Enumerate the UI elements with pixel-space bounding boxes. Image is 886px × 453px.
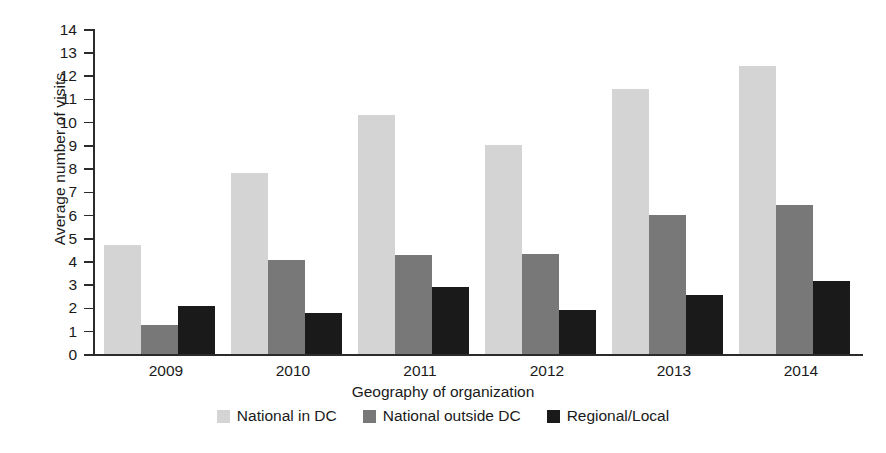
bar bbox=[358, 115, 395, 354]
x-tick-label: 2009 bbox=[104, 362, 228, 380]
y-tick-label: 10 bbox=[60, 115, 77, 131]
bar bbox=[686, 295, 723, 354]
y-tick: 5 bbox=[84, 238, 93, 240]
bar bbox=[612, 89, 649, 354]
y-tick: 6 bbox=[84, 215, 93, 217]
y-tick: 1 bbox=[84, 331, 93, 333]
bar bbox=[305, 313, 342, 354]
y-tick: 4 bbox=[84, 261, 93, 263]
y-tick-label: 0 bbox=[68, 347, 77, 363]
y-tick-label: 14 bbox=[60, 22, 77, 38]
y-axis-line bbox=[93, 29, 95, 354]
bar-group: 2013 bbox=[612, 29, 736, 354]
bar bbox=[485, 145, 522, 354]
y-tick-label: 3 bbox=[68, 277, 77, 293]
bar-group: 2011 bbox=[358, 29, 482, 354]
bar bbox=[649, 215, 686, 354]
x-axis-line bbox=[93, 354, 863, 356]
x-tick-label: 2010 bbox=[231, 362, 355, 380]
y-tick-label: 2 bbox=[68, 301, 77, 317]
y-tick-label: 4 bbox=[68, 254, 77, 270]
y-tick-label: 7 bbox=[68, 185, 77, 201]
bar-chart: Average number of visits 012345678910111… bbox=[0, 0, 886, 453]
y-tick-label: 1 bbox=[68, 324, 77, 340]
y-tick-label: 12 bbox=[60, 68, 77, 84]
x-tick-label: 2012 bbox=[485, 362, 609, 380]
legend-label: Regional/Local bbox=[567, 407, 670, 425]
bar-group: 2009 bbox=[104, 29, 228, 354]
bar bbox=[776, 205, 813, 354]
y-tick-label: 9 bbox=[68, 138, 77, 154]
bar bbox=[432, 287, 469, 354]
legend-item[interactable]: Regional/Local bbox=[547, 407, 670, 425]
x-axis-title: Geography of organization bbox=[0, 383, 886, 401]
bar bbox=[522, 254, 559, 354]
legend-swatch-icon bbox=[217, 410, 230, 423]
legend-item[interactable]: National outside DC bbox=[363, 407, 521, 425]
bar bbox=[268, 260, 305, 354]
plot-area: 01234567891011121314 2009201020112012201… bbox=[93, 29, 863, 354]
y-tick-label: 6 bbox=[68, 208, 77, 224]
bar-group: 2014 bbox=[739, 29, 863, 354]
bar bbox=[141, 325, 178, 354]
bar-group: 2012 bbox=[485, 29, 609, 354]
bar bbox=[231, 173, 268, 354]
y-tick-label: 13 bbox=[60, 45, 77, 61]
y-tick: 14 bbox=[84, 29, 93, 31]
y-tick: 3 bbox=[84, 284, 93, 286]
y-tick: 2 bbox=[84, 308, 93, 310]
y-tick: 8 bbox=[84, 168, 93, 170]
y-tick-label: 8 bbox=[68, 161, 77, 177]
bar bbox=[813, 281, 850, 354]
y-tick: 0 bbox=[84, 354, 93, 356]
y-tick: 10 bbox=[84, 122, 93, 124]
y-tick: 11 bbox=[84, 99, 93, 101]
y-tick: 9 bbox=[84, 145, 93, 147]
bar bbox=[178, 306, 215, 354]
x-tick-label: 2013 bbox=[612, 362, 736, 380]
y-tick-label: 5 bbox=[68, 231, 77, 247]
bar bbox=[104, 245, 141, 354]
legend-label: National in DC bbox=[237, 407, 337, 425]
legend-item[interactable]: National in DC bbox=[217, 407, 337, 425]
legend-swatch-icon bbox=[363, 410, 376, 423]
legend-swatch-icon bbox=[547, 410, 560, 423]
y-tick: 13 bbox=[84, 52, 93, 54]
bar-group: 2010 bbox=[231, 29, 355, 354]
y-tick: 7 bbox=[84, 192, 93, 194]
legend-label: National outside DC bbox=[383, 407, 521, 425]
bar bbox=[739, 66, 776, 354]
bar bbox=[395, 255, 432, 354]
y-tick: 12 bbox=[84, 75, 93, 77]
y-tick-label: 11 bbox=[61, 92, 77, 108]
chart-legend: National in DCNational outside DCRegiona… bbox=[0, 407, 886, 425]
x-tick-label: 2011 bbox=[358, 362, 482, 380]
x-tick-label: 2014 bbox=[739, 362, 863, 380]
bar bbox=[559, 310, 596, 354]
